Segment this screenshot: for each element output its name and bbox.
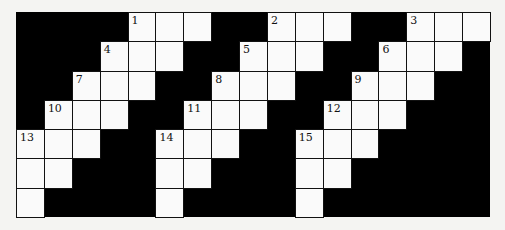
crossword-cell[interactable] xyxy=(267,71,296,101)
crossword-cell[interactable] xyxy=(183,158,212,188)
clue-number: 8 xyxy=(215,74,222,85)
crossword-cell-1[interactable]: 1 xyxy=(128,12,157,42)
crossword-cell[interactable] xyxy=(378,71,407,101)
crossword-cell[interactable] xyxy=(323,12,352,42)
crossword-cell[interactable] xyxy=(16,188,45,218)
crossword-cell[interactable] xyxy=(100,71,129,101)
crossword-cell[interactable] xyxy=(155,41,184,71)
crossword-cell[interactable] xyxy=(211,100,240,130)
clue-number: 13 xyxy=(20,132,34,143)
clue-number: 1 xyxy=(132,15,139,26)
crossword-cell-3[interactable]: 3 xyxy=(406,12,435,42)
clue-number: 11 xyxy=(187,103,201,114)
crossword-cell[interactable] xyxy=(183,129,212,159)
clue-number: 15 xyxy=(299,132,313,143)
crossword-cell-13[interactable]: 13 xyxy=(16,129,45,159)
crossword-cell-5[interactable]: 5 xyxy=(239,41,268,71)
crossword-cell[interactable] xyxy=(183,12,212,42)
crossword-cell[interactable] xyxy=(239,100,268,130)
crossword-cell-2[interactable]: 2 xyxy=(267,12,296,42)
crossword-cell[interactable] xyxy=(72,100,101,130)
crossword-cell[interactable] xyxy=(100,100,129,130)
clue-number: 2 xyxy=(271,15,278,26)
crossword-cell[interactable] xyxy=(239,71,268,101)
crossword-cell[interactable] xyxy=(128,41,157,71)
crossword-cell-11[interactable]: 11 xyxy=(183,100,212,130)
crossword-cell[interactable] xyxy=(72,129,101,159)
crossword-cell-10[interactable]: 10 xyxy=(44,100,73,130)
crossword-cell[interactable] xyxy=(434,41,463,71)
crossword-cell[interactable] xyxy=(406,71,435,101)
crossword-cell[interactable] xyxy=(462,12,491,42)
crossword-cell-6[interactable]: 6 xyxy=(378,41,407,71)
crossword-cell-15[interactable]: 15 xyxy=(295,129,324,159)
crossword-cell[interactable] xyxy=(378,100,407,130)
crossword-cell[interactable] xyxy=(267,41,296,71)
crossword-cell[interactable] xyxy=(211,129,240,159)
crossword-cell[interactable] xyxy=(351,129,380,159)
clue-number: 14 xyxy=(159,132,173,143)
crossword-cell[interactable] xyxy=(295,158,324,188)
clue-number: 3 xyxy=(410,15,417,26)
crossword-cell-7[interactable]: 7 xyxy=(72,71,101,101)
crossword-cell[interactable] xyxy=(295,188,324,218)
clue-number: 10 xyxy=(48,103,62,114)
crossword-cell[interactable] xyxy=(16,158,45,188)
crossword-cell-12[interactable]: 12 xyxy=(323,100,352,130)
crossword-cell[interactable] xyxy=(44,129,73,159)
crossword-cell[interactable] xyxy=(406,41,435,71)
clue-number: 5 xyxy=(243,44,250,55)
crossword-cell[interactable] xyxy=(323,158,352,188)
clue-number: 9 xyxy=(355,74,362,85)
crossword-cell-4[interactable]: 4 xyxy=(100,41,129,71)
crossword-cell[interactable] xyxy=(351,100,380,130)
crossword-cell[interactable] xyxy=(155,12,184,42)
crossword-cell[interactable] xyxy=(128,71,157,101)
crossword-cell-8[interactable]: 8 xyxy=(211,71,240,101)
crossword-cell[interactable] xyxy=(44,158,73,188)
crossword-grid: 123456789101112131415 xyxy=(16,12,490,217)
crossword-cell[interactable] xyxy=(323,129,352,159)
crossword-cell[interactable] xyxy=(434,12,463,42)
crossword-cell[interactable] xyxy=(295,41,324,71)
clue-number: 4 xyxy=(104,44,111,55)
crossword-cell-9[interactable]: 9 xyxy=(351,71,380,101)
crossword-cell[interactable] xyxy=(155,158,184,188)
clue-number: 7 xyxy=(76,74,83,85)
clue-number: 6 xyxy=(382,44,389,55)
crossword-cell[interactable] xyxy=(155,188,184,218)
crossword-cell-14[interactable]: 14 xyxy=(155,129,184,159)
clue-number: 12 xyxy=(327,103,341,114)
crossword-cell[interactable] xyxy=(295,12,324,42)
